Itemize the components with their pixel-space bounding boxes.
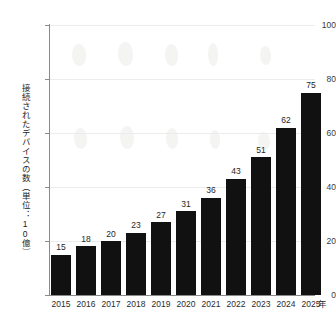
bar-value-label: 51 [256, 146, 265, 155]
bar-rect[interactable] [226, 179, 246, 295]
bar-slot: 18 [76, 25, 96, 295]
bar-slot: 36 [201, 25, 221, 295]
bar-value-label: 62 [281, 116, 290, 125]
y-axis-title: 接続されたデバイスの数（単位：10億） [13, 84, 29, 257]
bar-value-label: 43 [231, 167, 240, 176]
bar-rect[interactable] [176, 211, 196, 295]
bar-rect[interactable] [101, 241, 121, 295]
bar-chart-figure: 100 80 60 40 20 0 接続されたデバイスの数（単位：10億） 15… [0, 0, 336, 333]
bar-value-label: 75 [306, 81, 315, 90]
y-tick-mark-0 [45, 295, 50, 296]
bar-value-label: 15 [56, 243, 65, 252]
bar-slot: 51 [251, 25, 271, 295]
bar-value-label: 18 [81, 235, 90, 244]
x-axis-line [49, 295, 315, 296]
bar-value-label: 27 [156, 211, 165, 220]
bar-rect[interactable] [276, 128, 296, 295]
bar-value-label: 20 [106, 230, 115, 239]
bar-slot: 75 [301, 25, 321, 295]
bar-slot: 62 [276, 25, 296, 295]
bar-slot: 31 [176, 25, 196, 295]
bar-value-label: 23 [131, 221, 140, 230]
bar-slot: 43 [226, 25, 246, 295]
x-axis-unit-label: 年 [318, 300, 327, 309]
bar-slot: 20 [101, 25, 121, 295]
bar-value-label: 31 [181, 200, 190, 209]
bar-rect[interactable] [201, 198, 221, 295]
bar-slot: 23 [126, 25, 146, 295]
bar-value-label: 36 [206, 186, 215, 195]
bar-rect[interactable] [126, 233, 146, 295]
bar-rect[interactable] [151, 222, 171, 295]
bar-rect[interactable] [51, 255, 71, 296]
bar-rect[interactable] [251, 157, 271, 295]
bars-layer: 15 18 20 23 27 31 36 43 [50, 25, 315, 295]
bar-rect[interactable] [301, 93, 321, 296]
bar-rect[interactable] [76, 246, 96, 295]
bar-slot: 15 [51, 25, 71, 295]
bar-slot: 27 [151, 25, 171, 295]
